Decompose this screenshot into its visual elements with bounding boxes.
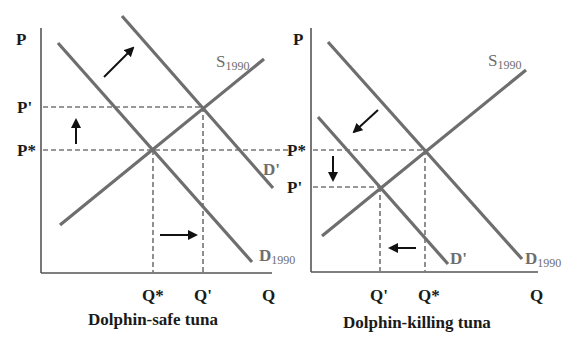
- right-q-star-label: Q*: [418, 286, 440, 305]
- left-demand-1990-curve: [58, 43, 252, 262]
- right-supply-curve: [322, 70, 526, 236]
- right-demand-1990-label: D1990: [525, 249, 561, 270]
- left-q-prime-label: Q': [194, 286, 212, 305]
- right-x-axis-label: Q: [530, 286, 543, 305]
- left-demand-1990-label: D1990: [259, 246, 295, 267]
- right-p-prime-label: P': [287, 178, 302, 197]
- left-demand-shifted-label: D': [263, 160, 280, 179]
- right-demand-shift-arrow: [354, 110, 378, 132]
- left-x-axis-label: Q: [262, 286, 275, 305]
- right-y-axis-label: P: [293, 30, 303, 49]
- left-graph: P P' P* Q* Q' Q S1990 D' D1990 Dolphin-s…: [16, 16, 295, 329]
- supply-demand-diagrams: P P' P* Q* Q' Q S1990 D' D1990 Dolphin-s…: [0, 0, 581, 348]
- left-p-star-label: P*: [17, 141, 36, 160]
- left-supply-label: S1990: [216, 52, 249, 73]
- right-demand-shifted-curve: [318, 117, 448, 264]
- right-q-prime-label: Q': [370, 286, 388, 305]
- right-supply-label: S1990: [488, 51, 521, 72]
- right-p-star-label: P*: [287, 141, 306, 160]
- left-p-prime-label: P': [17, 98, 32, 117]
- left-demand-shift-arrow: [104, 48, 133, 77]
- left-y-axis-label: P: [16, 30, 26, 49]
- right-demand-shifted-label: D': [450, 249, 467, 268]
- left-q-star-label: Q*: [142, 286, 164, 305]
- right-graph: P P* P' Q' Q* Q S1990 D' D1990 Dolphin-k…: [287, 28, 561, 332]
- left-graph-title: Dolphin-safe tuna: [88, 310, 218, 329]
- left-demand-shifted-curve: [122, 16, 273, 188]
- right-graph-title: Dolphin-killing tuna: [343, 313, 491, 332]
